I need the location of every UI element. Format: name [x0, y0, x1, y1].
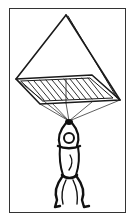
hanging-man — [55, 119, 89, 207]
illustration — [0, 0, 132, 224]
parachute-drawing — [0, 0, 132, 224]
pyramid-canopy — [16, 15, 120, 104]
